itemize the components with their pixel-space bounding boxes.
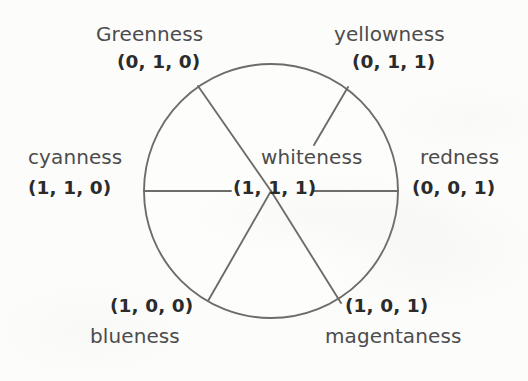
label-blueness: blueness — [90, 326, 180, 347]
color-wheel-diagram: Greenness (0, 1, 0) yellowness (0, 1, 1)… — [0, 0, 528, 381]
triple-cyanness: (1, 1, 0) — [28, 178, 111, 197]
triple-magentaness: (1, 0, 1) — [345, 296, 428, 315]
triple-yellowness: (0, 1, 1) — [352, 52, 435, 71]
label-redness: redness — [420, 147, 499, 168]
label-magentaness: magentaness — [325, 326, 461, 347]
label-whiteness: whiteness — [261, 147, 362, 168]
triple-greenness: (0, 1, 0) — [117, 52, 200, 71]
label-yellowness: yellowness — [334, 24, 445, 45]
triple-whiteness: (1, 1, 1) — [233, 178, 316, 197]
label-cyanness: cyanness — [28, 147, 122, 168]
triple-blueness: (1, 0, 0) — [110, 296, 193, 315]
label-greenness: Greenness — [96, 24, 203, 45]
triple-redness: (0, 0, 1) — [412, 178, 495, 197]
